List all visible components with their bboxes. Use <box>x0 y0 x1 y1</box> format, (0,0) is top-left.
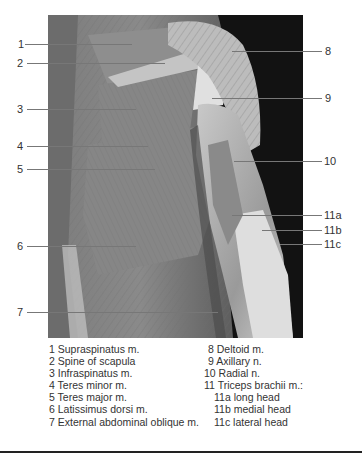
leader-line-8 <box>232 51 322 52</box>
label-11b: 11b <box>324 224 342 236</box>
leader-line-4 <box>27 146 148 147</box>
label-6: 6 <box>17 240 23 252</box>
leader-line-11c <box>280 244 322 245</box>
label-11a: 11a <box>324 209 342 221</box>
legend-item-6: 6 Latissimus dorsi m. <box>49 403 199 415</box>
leader-line-11a <box>232 215 322 216</box>
legend-item-11: 11 Triceps brachii m.: <box>204 379 303 391</box>
leader-line-7 <box>27 312 218 313</box>
label-1: 1 <box>18 38 24 50</box>
legend-item-7: 7 External abdominal oblique m. <box>49 416 199 428</box>
bottom-rule <box>0 451 362 453</box>
leader-line-2 <box>27 63 165 64</box>
legend-item-4: 4 Teres minor m. <box>49 379 199 391</box>
label-4: 4 <box>17 140 23 152</box>
legend-item-3: 3 Infraspinatus m. <box>49 367 199 379</box>
legend-column-2: 8 Deltoid m. 9 Axillary n. 10 Radial n. … <box>204 343 303 428</box>
leader-line-5 <box>27 169 155 170</box>
leader-line-1 <box>25 44 132 45</box>
label-3: 3 <box>17 103 23 115</box>
label-11c: 11c <box>324 238 341 250</box>
legend-item-9: 9 Axillary n. <box>204 355 303 367</box>
legend-item-11a: 11a long head <box>204 391 303 403</box>
anatomy-figure: 1 2 3 4 5 6 7 8 9 10 11a 11b 11c <box>0 0 362 340</box>
legend-item-11c: 11c lateral head <box>204 416 303 428</box>
legend-item-5: 5 Teres major m. <box>49 391 199 403</box>
label-9: 9 <box>325 92 331 104</box>
leader-line-6 <box>27 246 136 247</box>
label-8: 8 <box>325 45 331 57</box>
legend-item-2: 2 Spine of scapula <box>49 355 199 367</box>
leader-line-3 <box>27 109 136 110</box>
label-5: 5 <box>17 163 23 175</box>
label-7: 7 <box>17 306 23 318</box>
legend-item-1: 1 Supraspinatus m. <box>49 343 199 355</box>
legend-item-8: 8 Deltoid m. <box>204 343 303 355</box>
leader-line-9 <box>212 98 322 99</box>
legend-item-11b: 11b medial head <box>204 403 303 415</box>
leader-line-10 <box>234 161 322 162</box>
leader-line-11b <box>262 230 322 231</box>
label-2: 2 <box>17 57 23 69</box>
legend-item-10: 10 Radial n. <box>204 367 303 379</box>
legend-column-1: 1 Supraspinatus m. 2 Spine of scapula 3 … <box>49 343 199 428</box>
label-10: 10 <box>324 155 336 167</box>
